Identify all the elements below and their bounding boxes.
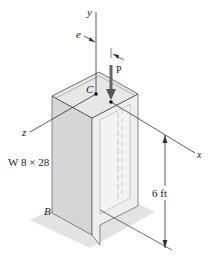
e-label: e (76, 28, 81, 40)
x-axis-label: x (196, 149, 202, 160)
b-label: B (44, 205, 51, 217)
z-axis-label: z (21, 126, 27, 138)
column-diagram: y e P C z x W 8 × 28 6 ft B (0, 0, 210, 260)
p-label: P (116, 64, 122, 75)
height-label: 6 ft (152, 187, 167, 199)
c-label: C (86, 83, 94, 95)
load-arrow-shaft (110, 65, 113, 91)
column-figure: y e P C z x W 8 × 28 6 ft B (0, 0, 210, 260)
section-label: W 8 × 28 (8, 156, 50, 168)
left-flange-face (52, 96, 92, 235)
load-point (109, 100, 113, 104)
centroid-point (94, 92, 98, 96)
web (100, 104, 130, 214)
y-axis-label: y (86, 6, 92, 18)
